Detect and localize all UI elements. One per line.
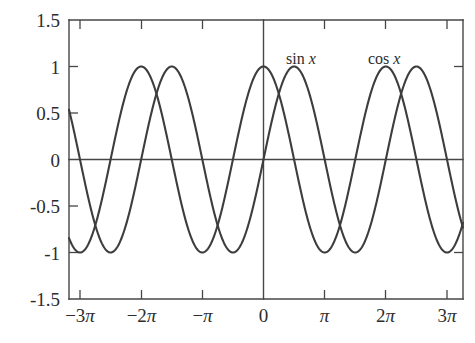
- y-label-1: 1: [51, 57, 61, 78]
- x-label-minus2pi: −2π: [127, 305, 157, 326]
- x-label-minus3pi: −3π: [65, 305, 95, 326]
- x-label-2pi: 2π: [376, 305, 396, 326]
- y-label-minus0.5: -0.5: [30, 196, 60, 217]
- y-label-minus1.5: -1.5: [30, 289, 60, 310]
- zero-axes: [69, 20, 463, 299]
- chart-svg: 1.5 1 0.5 0 -0.5 -1 -1.5 −3π −2π −π 0 π …: [0, 0, 475, 343]
- series-label-cos: cos x: [368, 50, 400, 67]
- y-label-0.5: 0.5: [36, 103, 60, 124]
- x-label-pi: π: [320, 305, 330, 326]
- chart-figure: 1.5 1 0.5 0 -0.5 -1 -1.5 −3π −2π −π 0 π …: [0, 0, 475, 343]
- x-label-minuspi: −π: [192, 305, 213, 326]
- x-label-0: 0: [259, 305, 269, 326]
- series-label-sin: sin x: [286, 50, 316, 67]
- y-label-1.5: 1.5: [36, 10, 60, 31]
- y-label-minus1: -1: [44, 243, 60, 264]
- x-label-3pi: 3π: [437, 305, 457, 326]
- y-label-0: 0: [51, 150, 61, 171]
